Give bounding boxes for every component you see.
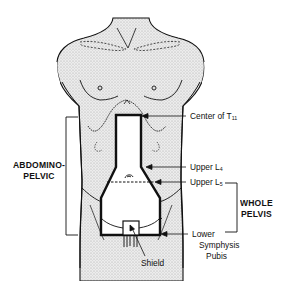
label-shield: Shield <box>141 257 164 268</box>
label-lower-symphysis-pubis: Lower Symphysis Pubis <box>192 228 239 261</box>
abdominopelvic-bracket <box>66 117 78 235</box>
label-whole-pelvis: WHOLE PELVIS <box>240 198 273 220</box>
label-abdominopelvic: ABDOMINO- PELVIC <box>13 160 65 182</box>
label-center-t11: Center of T11 <box>190 110 237 124</box>
label-upper-l4: Upper L4 <box>190 161 223 175</box>
label-upper-l5: Upper L5 <box>190 176 223 190</box>
anatomy-diagram <box>0 0 282 281</box>
